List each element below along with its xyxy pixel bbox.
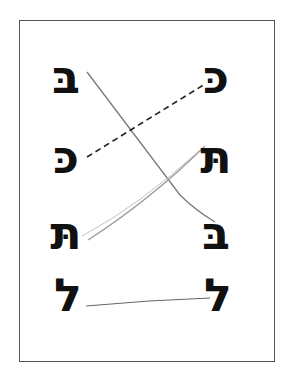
left-letter-4[interactable]: ל xyxy=(46,272,90,318)
right-letter-2[interactable]: תּ xyxy=(194,134,238,180)
right-letter-1[interactable]: כּ xyxy=(194,54,238,100)
left-letter-3[interactable]: תּ xyxy=(44,210,88,256)
right-letter-3[interactable]: בּ xyxy=(194,210,238,256)
left-letter-2[interactable]: כּ xyxy=(44,134,88,180)
task-description: match identical Hebrew letters xyxy=(0,0,1,1)
right-letter-4[interactable]: ל xyxy=(196,272,240,318)
left-letter-1[interactable]: בּ xyxy=(44,54,88,100)
